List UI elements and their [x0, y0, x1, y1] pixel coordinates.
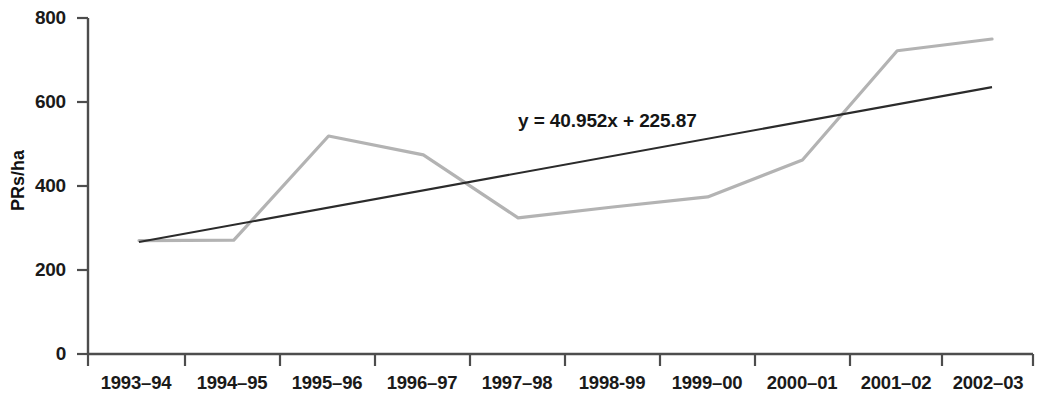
- x-tick-label-2000-01: 2000–01: [767, 372, 838, 394]
- y-tick-label-200: 200: [18, 259, 66, 281]
- x-axis-ticks: [88, 354, 1033, 366]
- plot-area: [0, 0, 1040, 396]
- y-tick-label-800: 800: [18, 7, 66, 29]
- x-tick-label-1994-95: 1994–95: [197, 372, 268, 394]
- data-series-line: [139, 39, 992, 241]
- y-tick-label-600: 600: [18, 91, 66, 113]
- y-tick-label-0: 0: [18, 343, 66, 365]
- chart-figure: 0 200 400 600 800 PRs/ha 1993–94 1994–95…: [0, 0, 1040, 396]
- x-tick-label-2001-02: 2001–02: [861, 372, 932, 394]
- y-axis-title: PRs/ha: [8, 141, 29, 221]
- trend-equation-label: y = 40.952x + 225.87: [518, 110, 697, 132]
- x-tick-label-1996-97: 1996–97: [387, 372, 458, 394]
- x-tick-label-2002-03: 2002–03: [953, 372, 1024, 394]
- x-tick-label-1997-98: 1997–98: [482, 372, 553, 394]
- y-axis-ticks: [77, 18, 88, 354]
- x-tick-label-1999-00: 1999–00: [672, 372, 743, 394]
- x-tick-label-1993-94: 1993–94: [101, 372, 172, 394]
- x-tick-label-1995-96: 1995–96: [292, 372, 363, 394]
- x-tick-label-1998-99: 1998-99: [579, 372, 646, 394]
